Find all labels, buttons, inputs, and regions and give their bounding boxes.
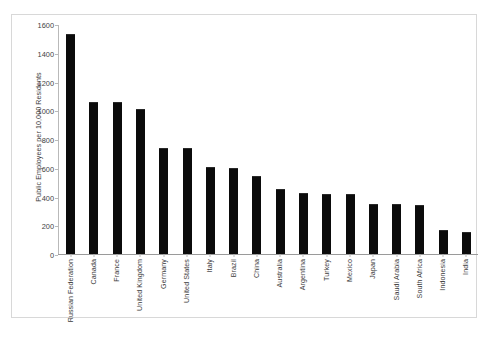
bar-slot [315,25,338,254]
x-axis-tick-mark [117,254,118,257]
bar [183,148,192,254]
x-axis-tick-label: Germany [160,259,168,289]
x-axis-tick-mark [373,254,374,257]
x-axis-tick-mark [70,254,71,257]
bar [439,230,448,254]
y-axis-tick-label: 400 [24,193,54,202]
x-axis-tick-mark [140,254,141,257]
x-axis-tick-mark [396,254,397,257]
x-axis-tick-mark [466,254,467,257]
bar-slot [199,25,222,254]
x-axis-label-slot: United States [175,259,198,338]
bar-slot [152,25,175,254]
figure-frame: Public Employees per 10,000 Residents 02… [11,14,477,318]
x-axis-label-slot: Brazil [222,259,245,338]
y-axis-tick-mark [55,198,58,199]
y-axis-tick-mark [55,169,58,170]
x-axis-tick-label: United Kingdom [136,259,144,311]
x-axis-labels: Russian FederationCanadaFranceUnited Kin… [59,259,478,338]
y-axis-tick-label: 1200 [24,78,54,87]
bar-slot [338,25,361,254]
y-axis-tick-label: 1600 [24,21,54,30]
bar [113,102,122,254]
bar [392,204,401,254]
y-axis-tick-label: 0 [24,251,54,260]
bar-slot [59,25,82,254]
x-axis-label-slot: Japan [362,259,385,338]
x-axis-tick-label: Italy [206,259,214,273]
x-axis-tick-label: Turkey [323,259,331,281]
x-axis-tick-label: Indonesia [439,259,447,291]
x-axis-label-slot: Turkey [315,259,338,338]
bar [299,193,308,254]
x-axis-label-slot: United Kingdom [129,259,152,338]
bar [159,148,168,254]
x-axis-tick-label: Argentina [299,259,307,290]
bar [346,194,355,254]
bar [66,34,75,254]
x-axis-label-slot: Australia [269,259,292,338]
y-axis-tick-mark [55,255,58,256]
bar-slot [292,25,315,254]
x-axis-tick-label: China [253,259,261,278]
x-axis-label-slot: Argentina [292,259,315,338]
x-axis-label-slot: France [106,259,129,338]
plot-area: 02004006008001000120014001600 [58,25,478,255]
x-axis-tick-mark [163,254,164,257]
y-axis-tick-mark [55,83,58,84]
bar [276,189,285,254]
x-axis-tick-label: Canada [90,259,98,284]
bar-slot [432,25,455,254]
y-axis-tick-mark [55,226,58,227]
x-axis-label-slot: Germany [152,259,175,338]
x-axis-tick-mark [93,254,94,257]
y-axis-tick-label: 800 [24,136,54,145]
x-axis-tick-mark [233,254,234,257]
x-axis-label-slot: Saudi Arabia [385,259,408,338]
x-axis-label-slot: China [245,259,268,338]
x-axis-tick-mark [443,254,444,257]
x-axis-tick-label: France [113,259,121,282]
x-axis-label-slot: Canada [82,259,105,338]
y-axis-tick-label: 1000 [24,107,54,116]
bar [415,205,424,254]
bar-slot [385,25,408,254]
bar [252,176,261,254]
bar-slot [222,25,245,254]
x-axis-tick-mark [280,254,281,257]
y-axis-tick-label: 1400 [24,49,54,58]
y-axis-tick-mark [55,140,58,141]
bar [206,167,215,254]
bar-slot [129,25,152,254]
x-axis-tick-label: Russian Federation [67,259,75,322]
bar-slot [106,25,129,254]
y-axis-tick-mark [55,111,58,112]
y-axis-tick-mark [55,25,58,26]
x-axis-label-slot: Italy [199,259,222,338]
bar-slot [408,25,431,254]
bar-slot [82,25,105,254]
x-axis-tick-label: India [462,259,470,275]
x-axis-tick-label: Japan [369,259,377,279]
x-axis-tick-mark [256,254,257,257]
x-axis-tick-label: Saudi Arabia [393,259,401,300]
bar-slot [245,25,268,254]
x-axis-tick-mark [419,254,420,257]
x-axis-label-slot: South Africa [408,259,431,338]
x-axis-tick-mark [187,254,188,257]
bar [322,194,331,254]
bar-slot [269,25,292,254]
bar-slot [362,25,385,254]
bar [136,109,145,254]
x-axis-tick-label: South Africa [416,259,424,298]
x-axis-tick-label: Mexico [346,259,354,282]
y-axis-tick-label: 600 [24,164,54,173]
x-axis-line [58,254,478,255]
x-axis-label-slot: Indonesia [432,259,455,338]
bar [369,204,378,254]
y-axis-tick-label: 200 [24,222,54,231]
bar-series [59,25,478,254]
bar [462,232,471,254]
bar [229,168,238,254]
y-axis-tick-mark [55,54,58,55]
